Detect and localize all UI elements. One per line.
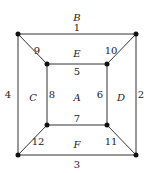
edge-label: 3 <box>74 159 80 170</box>
vertex-dot <box>16 153 21 158</box>
face-label: A <box>72 92 80 103</box>
face-label: F <box>73 139 82 150</box>
face-label: B <box>72 12 80 23</box>
edge-label: 2 <box>138 89 144 100</box>
edge-label: 4 <box>5 89 11 100</box>
vertex-dot <box>16 32 21 37</box>
vertex-dot <box>105 62 110 67</box>
face-label: E <box>72 48 81 59</box>
edge-label: 11 <box>105 136 118 147</box>
edge-label: 6 <box>97 89 103 100</box>
planar-graph: 123456789101112ABCDEF <box>0 0 150 173</box>
vertex-dot <box>105 123 110 128</box>
edge-label: 10 <box>105 45 118 56</box>
vertex-dot <box>134 153 139 158</box>
edge-label: 12 <box>32 136 45 147</box>
face-label: D <box>116 92 125 103</box>
face-label: C <box>29 92 37 103</box>
edge-label: 9 <box>34 45 40 56</box>
edge-label: 1 <box>74 22 80 33</box>
edge-label: 5 <box>74 66 80 77</box>
vertex-dot <box>134 32 139 37</box>
vertex-dot <box>45 123 50 128</box>
vertex-dot <box>45 62 50 67</box>
edge-label: 8 <box>49 89 55 100</box>
edge-9 <box>18 34 47 64</box>
edge-label: 7 <box>74 113 80 124</box>
